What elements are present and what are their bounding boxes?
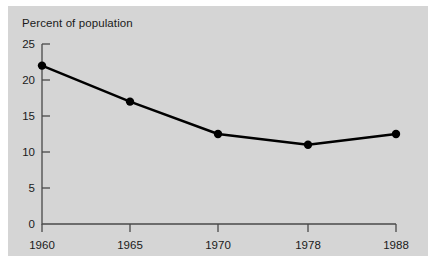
data-point-1978 [304, 141, 312, 149]
x-tick-label-1978: 1978 [295, 239, 321, 251]
line-chart: 25 20 15 10 5 0 1960 1965 1970 1978 1988 [0, 0, 434, 264]
x-tick-label-1965: 1965 [117, 239, 143, 251]
y-tick-label-25: 25 [22, 38, 35, 50]
data-point-markers [38, 61, 400, 149]
x-tick-label-1970: 1970 [205, 239, 231, 251]
figure-container: Percent of population 25 20 15 10 5 0 19… [0, 0, 434, 264]
y-tick-label-15: 15 [22, 110, 35, 122]
x-tick-label-1960: 1960 [29, 239, 55, 251]
data-point-1960 [38, 61, 46, 69]
y-tick-label-20: 20 [22, 74, 35, 86]
y-tick-label-10: 10 [22, 146, 35, 158]
data-point-1970 [214, 130, 222, 138]
y-tick-label-0: 0 [29, 218, 35, 230]
data-point-1965 [126, 97, 134, 105]
y-tick-label-5: 5 [29, 182, 35, 194]
x-tick-label-1988: 1988 [383, 239, 409, 251]
data-point-1988 [392, 130, 400, 138]
